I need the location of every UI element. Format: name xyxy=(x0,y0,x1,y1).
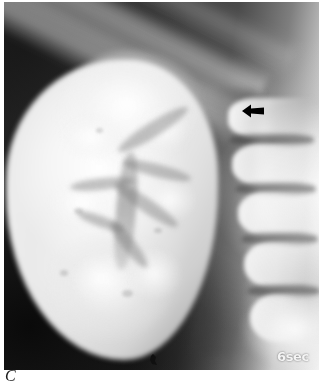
arrow-left-icon xyxy=(242,103,264,119)
figure-panel-label: C xyxy=(5,368,16,384)
parenchymal-texture xyxy=(122,290,133,297)
vertebral-body xyxy=(244,242,319,288)
radiograph-image: 6sec xyxy=(4,2,319,370)
timing-label: 6sec xyxy=(277,349,309,364)
vertebral-body xyxy=(238,192,319,236)
parenchymal-texture xyxy=(96,128,103,133)
renal-pyramid xyxy=(60,114,122,160)
parenchymal-texture xyxy=(60,270,68,276)
figure-panel: 6sec C xyxy=(0,0,319,385)
parenchymal-texture xyxy=(74,208,83,214)
parenchymal-texture xyxy=(154,228,162,233)
vertebral-body xyxy=(232,144,319,186)
radiopaque-marker-icon xyxy=(148,354,161,366)
